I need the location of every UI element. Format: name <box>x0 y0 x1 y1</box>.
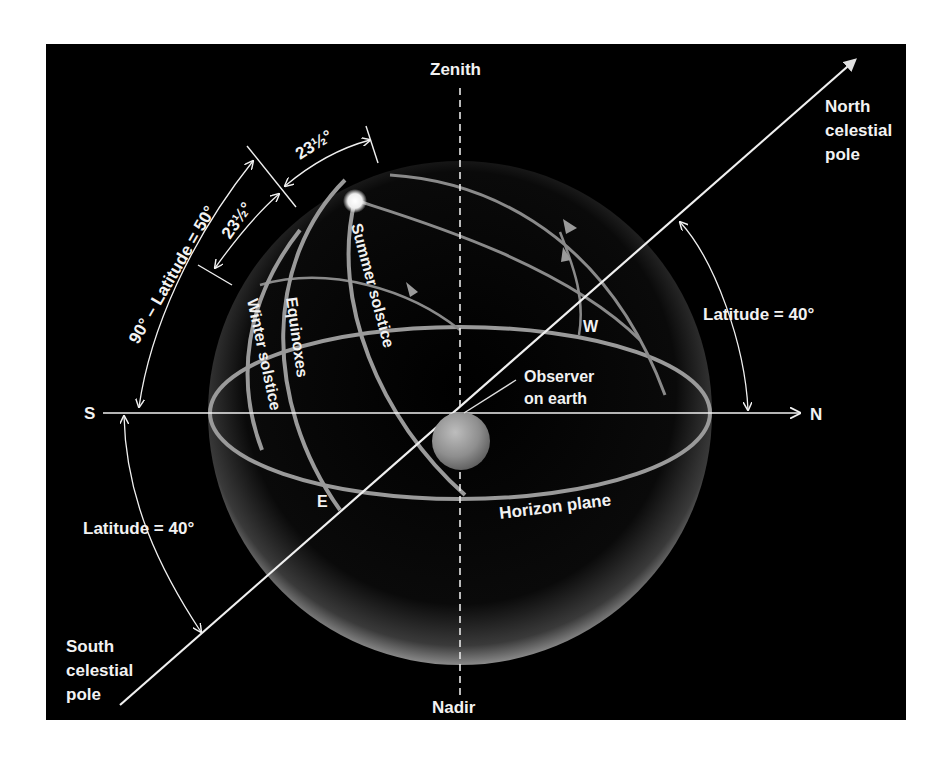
sun-icon <box>343 189 367 213</box>
south-pole-label-2: celestial <box>66 661 133 680</box>
latitude-right-label: Latitude = 40° <box>703 305 814 324</box>
south-pole-label-1: South <box>66 637 114 656</box>
observer-label-1: Observer <box>524 368 594 385</box>
north-pole-label-3: pole <box>825 145 860 164</box>
earth-icon <box>432 412 490 470</box>
nadir-label: Nadir <box>432 698 476 717</box>
observer-label-2: on earth <box>524 390 587 407</box>
north-pole-label-1: North <box>825 97 870 116</box>
west-label: W <box>583 318 599 335</box>
north-label: N <box>810 405 822 424</box>
latitude-left-label: Latitude = 40° <box>83 519 194 538</box>
south-label: S <box>84 404 95 423</box>
south-pole-label-3: pole <box>66 685 101 704</box>
east-label: E <box>317 493 328 510</box>
celestial-sphere-diagram: Zenith Nadir S N E W North celestial pol… <box>0 0 950 761</box>
zenith-label: Zenith <box>430 60 481 79</box>
north-pole-label-2: celestial <box>825 121 892 140</box>
